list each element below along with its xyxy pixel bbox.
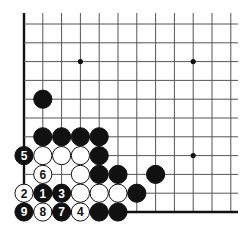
white-stone: 6: [34, 165, 52, 183]
black-stone-disc: [90, 203, 108, 221]
white-stone: [71, 184, 89, 202]
white-stone: [109, 184, 127, 202]
star-point: [191, 59, 196, 64]
move-number-label: 4: [77, 205, 84, 219]
black-stone: [71, 128, 89, 146]
black-stone: 3: [53, 184, 71, 202]
black-stone-disc: [109, 165, 127, 183]
black-stone: 9: [15, 203, 33, 221]
white-stone-disc: [71, 184, 89, 202]
white-stone: 4: [71, 203, 89, 221]
white-stone-disc: [109, 184, 127, 202]
white-stone: 8: [34, 203, 52, 221]
black-stone: [147, 165, 165, 183]
white-stone-disc: [71, 147, 89, 165]
white-stone-disc: [90, 184, 108, 202]
move-number-label: 2: [21, 187, 28, 201]
black-stone-disc: [90, 147, 108, 165]
black-stone: [128, 184, 146, 202]
black-stone-disc: [90, 128, 108, 146]
white-stone: [34, 147, 52, 165]
black-stone: [90, 203, 108, 221]
white-stone-disc: [71, 165, 89, 183]
black-stone-disc: [34, 90, 52, 108]
star-point: [78, 59, 83, 64]
black-stone: [53, 128, 71, 146]
move-number-label: 3: [58, 187, 65, 201]
black-stone: [109, 203, 127, 221]
board-grid: [24, 13, 238, 212]
black-stone: [109, 165, 127, 183]
black-stone: 1: [34, 184, 52, 202]
black-stone-disc: [128, 184, 146, 202]
move-number-label: 7: [58, 205, 65, 219]
move-number-label: 6: [39, 168, 46, 182]
black-stone: [90, 128, 108, 146]
white-stone: [71, 147, 89, 165]
white-stone: 2: [15, 184, 33, 202]
black-stone: 7: [53, 203, 71, 221]
move-number-label: 1: [39, 187, 46, 201]
black-stone: 5: [15, 147, 33, 165]
move-number-label: 8: [39, 205, 46, 219]
move-number-label: 5: [21, 149, 28, 163]
black-stone: [90, 165, 108, 183]
black-stone-disc: [71, 128, 89, 146]
move-number-label: 9: [21, 205, 28, 219]
white-stone: [90, 184, 108, 202]
star-point: [191, 153, 196, 158]
black-stone-disc: [90, 165, 108, 183]
black-stone: [34, 90, 52, 108]
white-stone: [53, 147, 71, 165]
white-stone: [71, 165, 89, 183]
black-stone-disc: [109, 203, 127, 221]
black-stone-disc: [53, 128, 71, 146]
white-stone-disc: [34, 147, 52, 165]
go-board-diagram: 562139874: [0, 0, 246, 237]
black-stone-disc: [34, 128, 52, 146]
white-stone-disc: [53, 147, 71, 165]
black-stone-disc: [147, 165, 165, 183]
black-stone: [90, 147, 108, 165]
black-stone: [34, 128, 52, 146]
